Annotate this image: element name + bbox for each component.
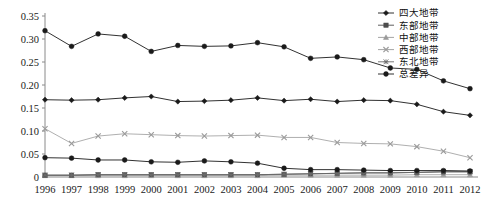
data-point-marker — [149, 172, 154, 177]
data-point-marker — [175, 99, 180, 104]
data-point-marker — [202, 172, 207, 177]
legend-label: 四大地带 — [399, 7, 439, 18]
x-tick-label: 1998 — [88, 184, 109, 195]
data-point-marker — [122, 34, 127, 39]
data-point-marker — [175, 160, 180, 165]
data-point-marker — [255, 40, 260, 45]
legend-label: 东北地带 — [399, 56, 439, 67]
series-line — [45, 129, 470, 158]
data-point-marker — [229, 44, 234, 49]
legend-label: 中部地带 — [399, 32, 439, 43]
legend-item-四大地带[interactable]: 四大地带 — [378, 7, 439, 18]
x-tick-label: 2002 — [194, 184, 215, 195]
legend-item-总差异[interactable]: 总差异 — [378, 68, 429, 79]
data-point-marker — [414, 102, 419, 107]
x-tick-label: 2000 — [141, 184, 162, 195]
data-point-marker — [335, 99, 340, 104]
legend-label: 总差异 — [399, 68, 429, 79]
legend-label: 西部地带 — [399, 44, 439, 55]
data-point-marker — [308, 97, 313, 102]
data-point-marker — [255, 95, 260, 100]
data-point-marker — [43, 155, 48, 160]
data-point-marker — [69, 98, 74, 103]
data-point-marker — [122, 158, 127, 163]
data-point-marker — [281, 98, 286, 103]
data-point-marker — [255, 172, 260, 177]
data-point-marker — [96, 172, 101, 177]
y-tick-label: 0.35 — [21, 11, 39, 22]
data-point-marker — [69, 141, 74, 146]
x-tick-label: 2010 — [406, 184, 427, 195]
legend-label: 东部地带 — [399, 20, 439, 31]
data-point-marker — [388, 98, 393, 103]
data-point-marker — [43, 173, 48, 178]
chart-canvas: 0.350.300.250.200.150.100.050 1996199719… — [0, 0, 488, 211]
data-point-marker — [468, 86, 473, 91]
legend-item-西部地带[interactable]: 西部地带 — [378, 44, 439, 55]
x-tick-label: 2012 — [460, 184, 481, 195]
data-point-marker — [467, 155, 472, 160]
data-point-marker — [384, 72, 389, 77]
data-point-marker — [467, 113, 472, 118]
data-point-marker — [282, 44, 287, 49]
x-tick-label: 2003 — [220, 184, 241, 195]
data-point-marker — [255, 161, 260, 166]
data-point-marker — [282, 172, 287, 177]
data-point-marker — [282, 166, 287, 171]
x-tick-label: 2009 — [380, 184, 401, 195]
data-point-marker — [441, 109, 446, 114]
legend-item-东北地带[interactable]: 东北地带 — [378, 56, 439, 67]
data-point-marker — [175, 172, 180, 177]
data-point-marker — [384, 23, 388, 27]
y-tick-label: 0 — [34, 172, 39, 183]
data-point-marker — [361, 98, 366, 103]
legend-item-中部地带[interactable]: 中部地带 — [378, 32, 439, 43]
data-point-marker — [202, 44, 207, 49]
data-point-marker — [149, 94, 154, 99]
y-tick-label: 0.20 — [21, 80, 39, 91]
data-point-marker — [229, 159, 234, 164]
data-point-marker — [43, 28, 48, 33]
data-point-marker — [441, 78, 446, 83]
data-point-marker — [335, 167, 340, 172]
series-总差异 — [43, 155, 473, 173]
data-point-marker — [69, 156, 74, 161]
data-point-marker — [122, 172, 127, 177]
data-point-marker — [308, 167, 313, 172]
data-point-marker — [149, 49, 154, 54]
data-point-marker — [96, 97, 101, 102]
data-point-marker — [69, 173, 74, 178]
data-point-marker — [384, 59, 389, 64]
line-chart: 0.350.300.250.200.150.100.050 1996199719… — [0, 0, 488, 211]
y-tick-label: 0.10 — [21, 126, 39, 137]
x-tick-label: 2006 — [300, 184, 321, 195]
data-point-marker — [361, 57, 366, 62]
y-tick-label: 0.05 — [21, 149, 39, 160]
chart-legend: 四大地带东部地带中部地带西部地带东北地带总差异 — [378, 7, 439, 79]
y-axis: 0.350.300.250.200.150.100.050 — [21, 11, 45, 183]
data-point-marker — [202, 159, 207, 164]
data-point-marker — [175, 43, 180, 48]
data-point-marker — [468, 169, 473, 174]
data-point-marker — [96, 32, 101, 37]
data-point-marker — [414, 168, 419, 173]
x-axis: 1996199719981999200020012002200320042005… — [35, 177, 481, 195]
x-tick-label: 1996 — [35, 184, 56, 195]
x-tick-label: 2007 — [327, 184, 348, 195]
series-西部地带 — [42, 126, 472, 160]
legend-item-东部地带[interactable]: 东部地带 — [378, 20, 439, 31]
data-point-marker — [228, 98, 233, 103]
x-tick-label: 2005 — [274, 184, 295, 195]
data-point-marker — [335, 55, 340, 60]
data-point-marker — [42, 97, 47, 102]
data-point-marker — [383, 10, 388, 15]
data-point-marker — [122, 95, 127, 100]
data-point-marker — [308, 56, 313, 61]
series-四大地带 — [42, 94, 472, 118]
data-point-marker — [361, 168, 366, 173]
x-tick-label: 1999 — [114, 184, 135, 195]
data-point-marker — [69, 44, 74, 49]
x-tick-label: 2004 — [247, 184, 269, 195]
x-tick-label: 2001 — [167, 184, 188, 195]
x-tick-label: 2008 — [353, 184, 374, 195]
